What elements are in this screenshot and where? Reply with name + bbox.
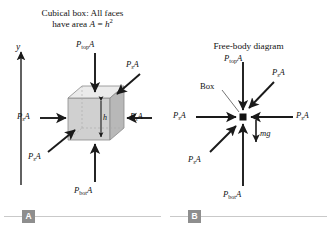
label-p-s-a-right-panel-b: PsA [296, 111, 309, 120]
label-p-s-a-left-panel-a: PsA [17, 112, 30, 121]
label-p-bot-a-panel-b: PbotA [223, 190, 241, 199]
force-arrow-upper-right [117, 74, 140, 94]
label-p-s-a-upper-right-panel-b: PsA [272, 68, 285, 77]
box-leader-line [222, 90, 239, 112]
panel-tag-a: A [22, 210, 35, 223]
label-cube-height-h: h [103, 114, 107, 122]
panel-b-rule: B [170, 210, 327, 224]
label-p-s-a-right-panel-a: PsA [130, 112, 143, 121]
label-weight-mg: mg [260, 129, 271, 138]
fbd-force-arrow-upper-right [249, 82, 274, 108]
label-box: Box [200, 82, 214, 91]
label-p-top-a-panel-a: PtopA [76, 40, 94, 49]
panel-a-cubical-box: Cubical box: All faces have area A = h2 [0, 0, 165, 239]
label-y-axis: y [16, 43, 20, 53]
fbd-force-arrow-lower-left [210, 126, 236, 152]
label-p-s-a-upper-right-panel-a: PsA [126, 60, 139, 69]
panel-b-free-body-diagram: Free-body diagram [166, 0, 331, 239]
label-p-s-a-left-panel-b: PsA [173, 111, 186, 120]
fbd-point-mass-dot [240, 114, 247, 121]
label-p-s-a-lower-left-panel-b: PsA [188, 155, 201, 164]
label-p-top-a-panel-b: PtopA [224, 54, 242, 63]
label-p-s-a-lower-left-panel-a: PsA [28, 152, 41, 161]
panel-tag-b: B [188, 210, 201, 223]
force-arrow-lower-left [48, 130, 75, 152]
panel-a-rule: A [4, 210, 161, 224]
pressure-forces-figure: Cubical box: All faces have area A = h2 [0, 0, 331, 239]
label-p-bot-a-panel-a: PbotA [74, 186, 92, 195]
